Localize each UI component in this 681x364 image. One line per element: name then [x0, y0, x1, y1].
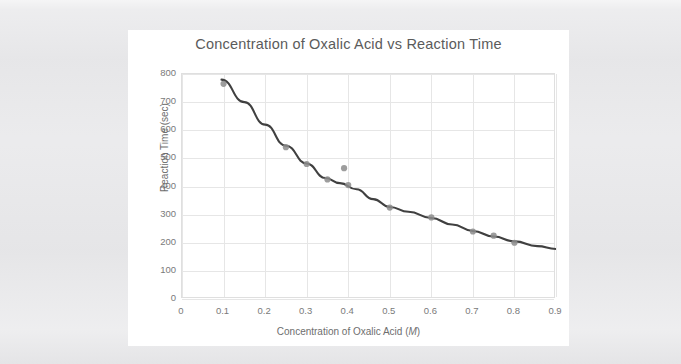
x-axis-tick-label: 0: [161, 306, 201, 316]
data-point-marker: [470, 228, 476, 234]
x-axis-unit-molar: M: [409, 326, 417, 337]
data-point-marker: [220, 81, 226, 87]
data-point-marker: [428, 214, 434, 220]
chart-series-layer: [182, 74, 556, 299]
data-point-marker: [345, 182, 351, 188]
plot-area: [181, 73, 555, 298]
chart-title: Concentration of Oxalic Acid vs Reaction…: [128, 36, 569, 52]
y-axis-title: Reaction Time (sec): [159, 68, 170, 228]
x-axis-tick-label: 0.6: [410, 306, 450, 316]
x-axis-tick-label: 0.9: [535, 306, 575, 316]
y-axis-tick-label: 200: [132, 237, 176, 247]
data-point-marker: [511, 240, 517, 246]
data-point-marker: [387, 204, 393, 210]
x-axis-tick-label: 0.5: [369, 306, 409, 316]
y-axis-tick-label: 0: [132, 293, 176, 303]
x-axis-tick-label: 0.1: [203, 306, 243, 316]
data-point-marker: [283, 144, 289, 150]
x-axis-title-prefix: Concentration of Oxalic Acid (: [277, 326, 409, 337]
x-axis-tick-label: 0.7: [452, 306, 492, 316]
data-point-marker: [341, 165, 347, 171]
data-point-marker: [304, 161, 310, 167]
gridline-horizontal: [182, 299, 554, 300]
trendline-path: [221, 80, 556, 249]
chart-card: Concentration of Oxalic Acid vs Reaction…: [128, 30, 569, 346]
x-axis-tick-label: 0.8: [493, 306, 533, 316]
data-point-marker: [491, 233, 497, 239]
gridline-vertical: [556, 74, 557, 297]
x-axis-title: Concentration of Oxalic Acid (M): [128, 326, 569, 337]
x-axis-tick-label: 0.3: [286, 306, 326, 316]
x-axis-tick-label: 0.4: [327, 306, 367, 316]
data-point-marker: [324, 176, 330, 182]
x-axis-title-suffix: ): [417, 326, 420, 337]
y-axis-tick-label: 100: [132, 265, 176, 275]
data-point-markers: [220, 81, 517, 246]
x-axis-tick-label: 0.2: [244, 306, 284, 316]
